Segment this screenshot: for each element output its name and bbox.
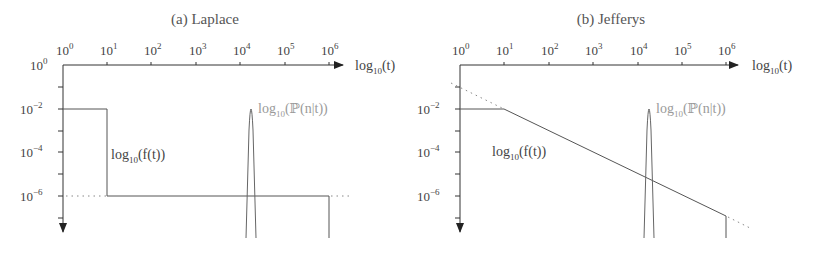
svg-text:102: 102 xyxy=(541,41,559,58)
panel-a-laplace: (a) Laplace 100 101 102 103 104 105 106 … xyxy=(20,11,395,238)
panel-a-f-curve xyxy=(63,109,329,238)
panel-b-f-label: log10(f(t)) xyxy=(492,144,546,162)
panel-b-peak-label: log10(ℙ(n|t)) xyxy=(656,101,726,119)
panel-b-x-label: log10(t) xyxy=(752,58,792,76)
panel-b-posterior-peak xyxy=(644,109,654,238)
svg-text:101: 101 xyxy=(100,41,118,58)
panel-a-peak-label: log10(ℙ(n|t)) xyxy=(258,101,328,119)
panel-a-x-label: log10(t) xyxy=(355,58,395,76)
svg-text:100: 100 xyxy=(452,41,470,58)
svg-text:10−6: 10−6 xyxy=(417,187,440,204)
svg-text:100: 100 xyxy=(56,41,74,58)
svg-text:106: 106 xyxy=(718,41,736,58)
panel-b-jefferys: (b) Jefferys 100 101 102 103 104 105 106… xyxy=(417,11,792,238)
svg-text:105: 105 xyxy=(277,41,295,58)
svg-text:10−4: 10−4 xyxy=(20,143,43,160)
svg-text:100: 100 xyxy=(30,56,48,73)
panel-a-y-tick-labels: 100 10−2 10−4 10−6 xyxy=(20,56,48,204)
svg-text:103: 103 xyxy=(189,41,207,58)
svg-text:106: 106 xyxy=(321,41,339,58)
svg-text:104: 104 xyxy=(630,41,648,58)
panel-a-posterior-peak xyxy=(246,109,256,238)
svg-text:103: 103 xyxy=(585,41,603,58)
panel-b-title: (b) Jefferys xyxy=(577,11,646,28)
panel-b-y-tick-labels: 10−2 10−4 10−6 xyxy=(417,100,440,204)
panel-a-f-label: log10(f(t)) xyxy=(111,147,165,165)
panel-b-y-ticks xyxy=(455,87,460,218)
panel-b-x-tick-labels: 100 101 102 103 104 105 106 xyxy=(452,41,736,58)
panel-a-title: (a) Laplace xyxy=(171,11,239,28)
svg-text:10−2: 10−2 xyxy=(417,100,440,117)
svg-text:10−4: 10−4 xyxy=(417,143,440,160)
panel-a-y-ticks xyxy=(58,87,63,218)
svg-text:10−2: 10−2 xyxy=(20,100,43,117)
svg-text:102: 102 xyxy=(144,41,162,58)
figure-canvas: (a) Laplace 100 101 102 103 104 105 106 … xyxy=(0,0,817,256)
panel-b-f-dotted-right xyxy=(728,217,752,229)
svg-text:101: 101 xyxy=(496,41,514,58)
svg-text:104: 104 xyxy=(233,41,251,58)
svg-text:105: 105 xyxy=(674,41,692,58)
svg-text:10−6: 10−6 xyxy=(20,187,43,204)
panel-b-f-curve xyxy=(460,109,726,238)
panel-a-x-tick-labels: 100 101 102 103 104 105 106 xyxy=(56,41,339,58)
